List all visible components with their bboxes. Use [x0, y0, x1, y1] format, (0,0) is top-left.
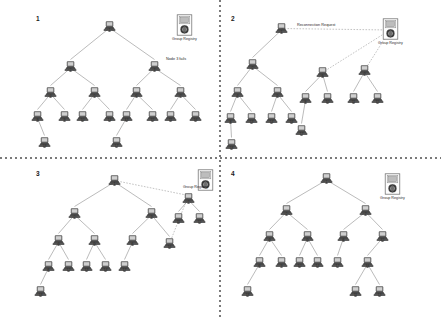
network-node-7[interactable]: 7 — [174, 84, 187, 95]
node-label: 2 — [64, 216, 85, 220]
node-label: 11 — [343, 101, 364, 105]
network-node-8[interactable]: 8 — [224, 110, 237, 121]
network-node-17[interactable]: 17 — [295, 122, 308, 133]
node-label: 14 — [261, 121, 282, 125]
group-registry-glyph — [384, 173, 401, 195]
node-label: 18 — [237, 294, 258, 298]
network-node-6[interactable]: 6 — [316, 64, 329, 75]
network-node-13[interactable]: 13 — [245, 110, 258, 121]
network-node-18[interactable]: 18 — [225, 136, 238, 147]
node-label: 15 — [189, 221, 210, 225]
network-node-14[interactable]: 14 — [311, 254, 324, 265]
node-label: 1 — [104, 183, 125, 187]
network-node-9[interactable]: 9 — [299, 90, 312, 101]
network-node-9[interactable]: 9 — [275, 254, 288, 265]
panel-2: 2 126745910111581314161718 Group Registr… — [221, 0, 441, 158]
network-node-11[interactable]: 11 — [172, 210, 185, 221]
group-registry-icon: Group Registry — [382, 18, 399, 40]
group-registry-icon: Group Registry — [176, 14, 193, 36]
network-node-12[interactable]: 12 — [62, 258, 75, 269]
network-node-3[interactable]: 3 — [148, 58, 161, 69]
group-registry-label: Group Registry — [183, 185, 220, 189]
node-label: 4 — [40, 95, 61, 99]
group-registry-glyph — [382, 18, 399, 40]
network-node-18[interactable]: 18 — [34, 283, 47, 294]
network-node-13[interactable]: 13 — [373, 283, 386, 294]
network-node-5[interactable]: 5 — [271, 84, 284, 95]
node-label: 9 — [295, 101, 316, 105]
network-node-1[interactable]: 1 — [108, 172, 121, 183]
network-node-16[interactable]: 16 — [285, 110, 298, 121]
network-node-6[interactable]: 6 — [126, 232, 139, 243]
node-label: 16 — [185, 119, 206, 123]
node-label: 11 — [168, 221, 189, 225]
node-label: 14 — [307, 265, 328, 269]
network-node-5[interactable]: 5 — [301, 228, 314, 239]
network-node-17[interactable]: 17 — [118, 258, 131, 269]
network-node-16[interactable]: 16 — [189, 108, 202, 119]
network-node-11[interactable]: 11 — [164, 108, 177, 119]
network-node-5[interactable]: 5 — [88, 232, 101, 243]
network-node-14[interactable]: 14 — [265, 110, 278, 121]
node-label: 13 — [116, 119, 137, 123]
network-node-17[interactable]: 17 — [331, 254, 344, 265]
network-node-17[interactable]: 17 — [110, 134, 123, 145]
network-node-4[interactable]: 4 — [44, 84, 57, 95]
panel-4: 4 127456158910141716181113 Group Registr… — [221, 159, 441, 317]
network-node-11[interactable]: 11 — [349, 283, 362, 294]
node-label: 17 — [114, 269, 135, 273]
network-node-13[interactable]: 13 — [80, 258, 93, 269]
group-registry-icon: Group Registry — [197, 169, 214, 191]
node-label: 7 — [354, 73, 375, 77]
network-node-4[interactable]: 4 — [263, 228, 276, 239]
network-node-15[interactable]: 15 — [146, 108, 159, 119]
network-node-6[interactable]: 6 — [337, 228, 350, 239]
network-node-7[interactable]: 7 — [182, 190, 195, 201]
network-node-2[interactable]: 2 — [280, 202, 293, 213]
network-node-1[interactable]: 1 — [103, 18, 116, 29]
network-node-11[interactable]: 11 — [347, 90, 360, 101]
network-node-15[interactable]: 15 — [193, 210, 206, 221]
network-node-10[interactable]: 10 — [76, 108, 89, 119]
network-node-18[interactable]: 18 — [38, 134, 51, 145]
network-node-8[interactable]: 8 — [31, 108, 44, 119]
network-node-15[interactable]: 15 — [371, 90, 384, 101]
network-node-4[interactable]: 4 — [231, 84, 244, 95]
node-label: 18 — [221, 147, 242, 151]
node-label: 13 — [369, 294, 390, 298]
network-node-7[interactable]: 7 — [359, 202, 372, 213]
panel-3: 3 123711154561681213141718 Group Registr… — [0, 159, 220, 317]
network-node-14[interactable]: 14 — [103, 108, 116, 119]
network-node-2[interactable]: 2 — [68, 205, 81, 216]
network-node-18[interactable]: 18 — [241, 283, 254, 294]
network-edge — [115, 181, 189, 196]
network-node-14[interactable]: 14 — [99, 258, 112, 269]
network-node-10[interactable]: 10 — [321, 90, 334, 101]
network-node-2[interactable]: 2 — [246, 56, 259, 67]
network-node-8[interactable]: 8 — [253, 254, 266, 265]
node-label: 2 — [242, 67, 263, 71]
network-node-10[interactable]: 10 — [293, 254, 306, 265]
node-label: 5 — [267, 95, 288, 99]
network-node-8[interactable]: 8 — [42, 258, 55, 269]
network-node-16[interactable]: 16 — [361, 254, 374, 265]
network-node-3[interactable]: 3 — [145, 205, 158, 216]
network-edge — [323, 30, 391, 73]
node-label: 4 — [259, 239, 280, 243]
network-node-2[interactable]: 2 — [64, 58, 77, 69]
node-label: 11 — [160, 119, 181, 123]
network-node-4[interactable]: 4 — [52, 232, 65, 243]
network-node-9[interactable]: 9 — [58, 108, 71, 119]
network-node-1[interactable]: 1 — [275, 20, 288, 31]
network-node-1[interactable]: 1 — [320, 170, 333, 181]
group-registry-label: Group Registry — [372, 41, 409, 45]
network-node-7[interactable]: 7 — [358, 62, 371, 73]
network-node-13[interactable]: 13 — [120, 108, 133, 119]
network-node-5[interactable]: 5 — [88, 84, 101, 95]
network-node-15[interactable]: 15 — [376, 228, 389, 239]
node-label: 4 — [48, 243, 69, 247]
network-node-6[interactable]: 6 — [130, 84, 143, 95]
node-label: 8 — [38, 269, 59, 273]
network-edge — [282, 29, 391, 31]
network-node-16[interactable]: 16 — [163, 235, 176, 246]
